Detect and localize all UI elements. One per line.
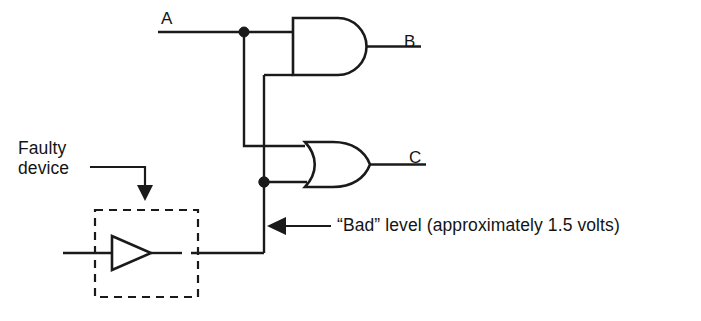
faulty-device-callout-line [90,167,145,186]
circuit-diagram-canvas: A B C Faulty device “Bad” level (approxi… [0,0,701,321]
junction-dot-node-bad-level [259,177,269,187]
bad-level-arrowhead-icon [267,217,286,235]
faulty-device-label-line1: Faulty [18,138,66,159]
signal-label-a: A [161,9,173,29]
bad-level-label: “Bad” level (approximately 1.5 volts) [337,215,620,236]
faulty-device-label-line2: device [18,158,69,179]
signal-label-b: B [404,32,416,52]
junction-dot-node-a-tap [239,27,249,37]
and-gate-body [293,18,367,75]
circuit-schematic-svg [0,0,701,321]
or-gate-body [305,142,370,187]
buffer-gate-body [112,236,151,270]
signal-label-c: C [409,148,421,168]
faulty-device-arrowhead-icon [137,185,153,201]
